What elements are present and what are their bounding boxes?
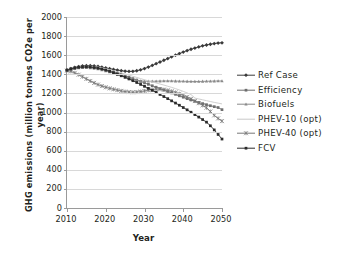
y-tick-label: 1000	[28, 108, 62, 117]
legend-marker-icon	[236, 83, 256, 98]
y-tick-mark	[64, 74, 67, 75]
series-phev-40-opt	[65, 69, 224, 123]
data-point-marker	[189, 47, 193, 51]
data-point-marker	[132, 79, 135, 82]
x-tick-label: 2040	[162, 214, 202, 224]
y-tick-label: 600	[28, 146, 62, 155]
x-tick-mark	[67, 208, 68, 212]
data-point-marker	[143, 67, 147, 71]
x-tick-label: 2030	[124, 214, 164, 224]
data-point-marker	[101, 68, 104, 71]
data-point-marker	[205, 43, 209, 47]
x-tick-label: 2020	[85, 214, 125, 224]
x-axis-title: Year	[66, 233, 221, 243]
y-tick-label: 1600	[28, 51, 62, 60]
data-point-marker	[88, 79, 92, 83]
data-point-marker	[151, 84, 154, 87]
data-point-marker	[174, 102, 177, 105]
y-tick-mark	[64, 132, 67, 133]
x-tick-label: 2050	[201, 214, 241, 224]
legend-item-phev-40-opt[interactable]: PHEV-40 (opt)	[236, 126, 352, 141]
data-point-marker	[123, 69, 127, 73]
legend-item-biofuels[interactable]: Biofuels	[236, 97, 352, 112]
data-point-marker	[186, 108, 189, 111]
data-point-marker	[217, 106, 220, 109]
data-point-marker	[127, 70, 131, 74]
data-point-marker	[217, 133, 220, 136]
gridline	[67, 55, 222, 56]
x-tick-label: 2010	[46, 214, 86, 224]
legend-item-fcv[interactable]: FCV	[236, 141, 352, 156]
data-point-marker	[139, 68, 143, 72]
data-point-marker	[92, 81, 96, 85]
data-point-marker	[124, 76, 127, 79]
data-point-marker	[201, 103, 205, 107]
legend-label: PHEV-10 (opt)	[258, 113, 322, 125]
gridline	[67, 93, 222, 94]
data-point-marker	[93, 66, 96, 69]
data-point-marker	[178, 104, 181, 107]
legend-marker-icon	[236, 97, 256, 112]
y-tick-mark	[64, 93, 67, 94]
data-point-marker	[163, 95, 166, 98]
data-point-marker	[216, 41, 220, 45]
data-point-marker	[245, 146, 248, 149]
plot-area	[66, 17, 222, 209]
data-point-marker	[221, 138, 224, 141]
legend-marker-icon	[236, 126, 256, 141]
y-tick-label: 800	[28, 127, 62, 136]
data-point-marker	[181, 50, 185, 54]
data-point-marker	[147, 87, 150, 90]
x-tick-mark	[222, 208, 223, 212]
legend-label: FCV	[258, 142, 276, 154]
data-point-marker	[213, 105, 216, 108]
data-point-marker	[245, 88, 248, 91]
y-tick-mark	[64, 36, 67, 37]
y-tick-label: 1200	[28, 89, 62, 98]
data-point-marker	[185, 49, 189, 53]
y-tick-mark	[64, 189, 67, 190]
series-line	[67, 71, 222, 121]
y-tick-mark	[64, 170, 67, 171]
data-point-marker	[221, 108, 224, 111]
data-point-marker	[220, 119, 224, 123]
gridline	[67, 17, 222, 18]
y-tick-label: 400	[28, 165, 62, 174]
data-point-marker	[97, 67, 100, 70]
legend-item-ref-case[interactable]: Ref Case	[236, 68, 352, 83]
data-point-marker	[166, 97, 169, 100]
legend-item-phev-10-opt[interactable]: PHEV-10 (opt)	[236, 112, 352, 127]
data-point-marker	[212, 42, 216, 46]
data-point-marker	[205, 121, 208, 124]
gridline	[67, 151, 222, 152]
data-point-marker	[146, 65, 150, 69]
data-point-marker	[135, 69, 139, 73]
data-point-marker	[193, 46, 197, 50]
data-point-marker	[158, 60, 162, 64]
chart-figure: GHG emissions (million tonnes CO2e per y…	[0, 0, 352, 261]
legend-label: PHEV-40 (opt)	[258, 127, 322, 139]
data-point-marker	[170, 99, 173, 102]
data-point-marker	[104, 69, 107, 72]
data-point-marker	[70, 68, 73, 71]
data-point-marker	[151, 89, 154, 92]
y-tick-mark	[64, 113, 67, 114]
x-tick-mark	[183, 208, 184, 212]
legend-label: Biofuels	[258, 98, 295, 110]
data-point-marker	[128, 78, 131, 81]
gridline	[67, 36, 222, 37]
y-tick-mark	[64, 151, 67, 152]
y-tick-mark	[64, 17, 67, 18]
legend-item-efficiency[interactable]: Efficiency	[236, 83, 352, 98]
series-ref-case	[65, 41, 224, 73]
data-point-marker	[204, 106, 208, 110]
chart-legend: Ref CaseEfficiencyBiofuelsPHEV-10 (opt)P…	[236, 68, 352, 155]
y-tick-label: 200	[28, 184, 62, 193]
data-point-marker	[77, 66, 80, 69]
data-point-marker	[84, 77, 88, 81]
legend-label: Efficiency	[258, 84, 303, 96]
data-point-marker	[166, 57, 170, 61]
data-point-marker	[220, 41, 224, 45]
data-point-marker	[208, 42, 212, 46]
gridline	[67, 74, 222, 75]
